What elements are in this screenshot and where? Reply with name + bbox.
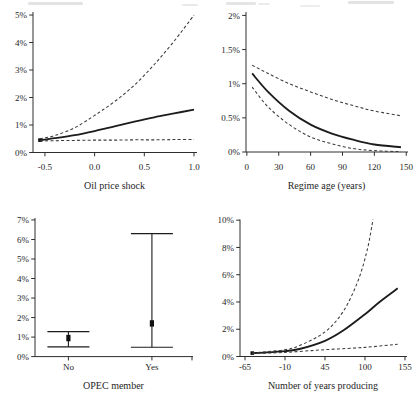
svg-text:45: 45 [320,362,330,372]
svg-text:30: 30 [274,162,284,172]
x-axis-label-regime-age: Regime age (years) [246,179,407,193]
svg-text:6%: 6% [222,270,235,280]
svg-text:-0.5: -0.5 [38,162,53,172]
svg-text:4%: 4% [17,274,30,284]
svg-text:4%: 4% [15,38,28,48]
svg-text:100: 100 [358,362,372,372]
svg-text:3%: 3% [17,293,30,303]
svg-text:-65: -65 [239,362,251,372]
svg-text:0%: 0% [15,148,28,158]
x-axis-label-opec-member: OPEC member [35,379,192,393]
svg-text:150: 150 [400,162,414,172]
svg-text:90: 90 [338,162,348,172]
svg-text:0%: 0% [17,352,30,362]
svg-text:8%: 8% [222,243,235,253]
svg-text:0.0: 0.0 [89,162,101,172]
svg-text:0.5: 0.5 [139,162,151,172]
svg-text:-10: -10 [279,362,291,372]
svg-text:2%: 2% [228,11,241,21]
chart-years-producing: 0%2%4%6%8%10%-65-1045100155 [208,200,418,402]
svg-text:2%: 2% [15,93,28,103]
svg-text:60: 60 [306,162,316,172]
chart-oil-price-shock: 0%1%2%3%4%5%-0.50.00.51.0 [0,0,210,200]
svg-text:6%: 6% [17,235,30,245]
x-axis-label-years-producing: Number of years producing [240,379,406,393]
svg-text:1.5%: 1.5% [221,45,240,55]
svg-text:7%: 7% [17,215,30,225]
svg-text:5%: 5% [15,10,28,20]
chart-regime-age: 0%0.5%1%1.5%2%0306090120150 [208,0,418,200]
svg-text:2%: 2% [222,324,235,334]
svg-text:120: 120 [368,162,382,172]
svg-text:1%: 1% [228,79,241,89]
svg-text:0: 0 [245,162,250,172]
svg-text:Yes: Yes [145,362,159,372]
svg-text:10%: 10% [218,215,235,225]
chart-opec-member: 0%1%2%3%4%5%6%7%NoYes [0,200,210,402]
svg-text:0.5%: 0.5% [221,113,240,123]
svg-text:5%: 5% [17,254,30,264]
svg-text:2%: 2% [17,313,30,323]
x-axis-label-oil-price-shock: Oil price shock [33,179,196,193]
svg-text:1%: 1% [17,332,30,342]
figure-panel-grid: 0%1%2%3%4%5%-0.50.00.51.0 0%0.5%1%1.5%2%… [0,0,418,402]
svg-text:0%: 0% [222,352,235,362]
svg-text:1.0: 1.0 [188,162,200,172]
svg-text:0%: 0% [228,147,241,157]
svg-text:155: 155 [398,362,412,372]
svg-text:4%: 4% [222,297,235,307]
svg-text:3%: 3% [15,65,28,75]
svg-text:No: No [63,362,74,372]
svg-text:1%: 1% [15,120,28,130]
